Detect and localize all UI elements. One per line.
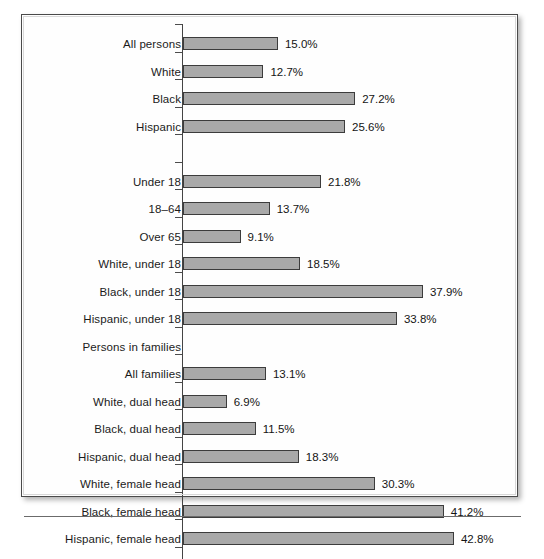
chart-row: All families13.1% xyxy=(22,360,517,388)
chart-bar-value-label: 15.0% xyxy=(285,30,318,58)
chart-row-label: Hispanic, dual head xyxy=(78,443,181,471)
chart-row: Hispanic, dual head18.3% xyxy=(22,443,517,471)
chart-row-bar-area: 42.8% xyxy=(183,525,517,553)
axis-tick xyxy=(175,492,182,493)
chart-bar-value-label: 42.8% xyxy=(461,525,494,553)
chart-bar xyxy=(183,285,423,298)
chart-row-label: Black, dual head xyxy=(94,415,181,443)
axis-tick xyxy=(175,24,182,25)
axis-tick xyxy=(175,244,182,245)
chart-row-label: Under 18 xyxy=(133,168,181,196)
chart-row-label: 18–64 xyxy=(149,195,181,223)
chart-row-bar-area: 30.3% xyxy=(183,470,517,498)
axis-tick xyxy=(175,547,182,548)
chart-row-bar-area: 6.9% xyxy=(183,388,517,416)
chart-bar-value-label: 13.1% xyxy=(273,360,306,388)
chart-row: Black, under 1837.9% xyxy=(22,278,517,306)
chart-bar-value-label: 11.5% xyxy=(263,415,295,443)
chart-row-label: Hispanic xyxy=(136,113,181,141)
chart-row: White, female head30.3% xyxy=(22,470,517,498)
axis-tick xyxy=(175,327,182,328)
axis-tick xyxy=(175,299,182,300)
axis-tick xyxy=(175,217,182,218)
chart-bar-value-label: 25.6% xyxy=(352,113,385,141)
chart-bar xyxy=(183,65,263,78)
chart-row: Black27.2% xyxy=(22,85,517,113)
figure-card: All persons15.0%White12.7%Black27.2%Hisp… xyxy=(21,14,518,497)
chart-bar-value-label: 6.9% xyxy=(234,388,260,416)
chart-row-label: White, female head xyxy=(80,470,181,498)
chart-bar xyxy=(183,450,299,463)
chart-row-bar-area: 11.5% xyxy=(183,415,517,443)
chart-bar-value-label: 27.2% xyxy=(362,85,395,113)
chart-row: Persons in families xyxy=(22,333,517,361)
chart-row-bar-area: 25.6% xyxy=(183,113,517,141)
chart-row: Hispanic25.6% xyxy=(22,113,517,141)
chart-row-bar-area: 18.3% xyxy=(183,443,517,471)
axis-tick xyxy=(175,437,182,438)
chart-row-label: Black, female head xyxy=(81,498,181,526)
footer-divider-rule xyxy=(24,516,521,517)
axis-tick xyxy=(175,52,182,53)
axis-tick xyxy=(175,272,182,273)
axis-tick xyxy=(175,162,182,163)
axis-tick xyxy=(175,354,182,355)
axis-tick xyxy=(175,79,182,80)
chart-row-bar-area: 21.8% xyxy=(183,168,517,196)
chart-row-label: White, under 18 xyxy=(98,250,181,278)
chart-row: Black, female head41.2% xyxy=(22,498,517,526)
chart-bar-value-label: 33.8% xyxy=(404,305,437,333)
chart-bar xyxy=(183,422,256,435)
chart-bar-value-label: 18.3% xyxy=(306,443,339,471)
chart-bar xyxy=(183,532,454,545)
chart-row-bar-area: 15.0% xyxy=(183,30,517,58)
chart-row-label: Over 65 xyxy=(139,223,181,251)
chart-row: Hispanic, under 1833.8% xyxy=(22,305,517,333)
chart-row-bar-area xyxy=(183,140,517,168)
chart-row-bar-area: 33.8% xyxy=(183,305,517,333)
chart-row: White, dual head6.9% xyxy=(22,388,517,416)
chart-row-label: All families xyxy=(125,360,181,388)
chart-row-label: Black xyxy=(152,85,181,113)
chart-row-label: Hispanic, under 18 xyxy=(83,305,181,333)
chart-bar-value-label: 12.7% xyxy=(270,58,303,86)
chart-bar-value-label: 30.3% xyxy=(382,470,415,498)
chart-row: 18–6413.7% xyxy=(22,195,517,223)
chart-bar xyxy=(183,175,321,188)
axis-tick xyxy=(175,519,182,520)
chart-bar xyxy=(183,395,227,408)
chart-bar-value-label: 37.9% xyxy=(430,278,463,306)
chart-row-bar-area: 13.1% xyxy=(183,360,517,388)
bar-chart-plot: All persons15.0%White12.7%Black27.2%Hisp… xyxy=(22,15,517,496)
axis-tick xyxy=(175,134,182,135)
axis-tick xyxy=(175,409,182,410)
chart-row: All persons15.0% xyxy=(22,30,517,58)
chart-bar-value-label: 18.5% xyxy=(307,250,340,278)
chart-row-label: White xyxy=(151,58,181,86)
chart-row: Black, dual head11.5% xyxy=(22,415,517,443)
chart-row-label: All persons xyxy=(123,30,181,58)
chart-bar xyxy=(183,120,345,133)
chart-bar xyxy=(183,37,278,50)
chart-row: White12.7% xyxy=(22,58,517,86)
chart-row xyxy=(22,140,517,168)
chart-row-label: White, dual head xyxy=(93,388,181,416)
chart-bar xyxy=(183,230,241,243)
chart-bar-value-label: 21.8% xyxy=(328,168,361,196)
chart-row-bar-area: 18.5% xyxy=(183,250,517,278)
chart-row-bar-area: 27.2% xyxy=(183,85,517,113)
chart-bar xyxy=(183,257,300,270)
chart-bar xyxy=(183,92,355,105)
chart-row-bar-area: 37.9% xyxy=(183,278,517,306)
chart-row-bar-area: 13.7% xyxy=(183,195,517,223)
axis-tick xyxy=(175,464,182,465)
axis-tick xyxy=(175,107,182,108)
chart-bar xyxy=(183,312,397,325)
chart-row-bar-area: 9.1% xyxy=(183,223,517,251)
chart-row: Hispanic, female head42.8% xyxy=(22,525,517,553)
chart-row-bar-area xyxy=(183,333,517,361)
axis-tick xyxy=(175,189,182,190)
chart-bar-value-label: 41.2% xyxy=(451,498,484,526)
chart-row-label: Hispanic, female head xyxy=(65,525,181,553)
chart-bar-value-label: 13.7% xyxy=(277,195,310,223)
